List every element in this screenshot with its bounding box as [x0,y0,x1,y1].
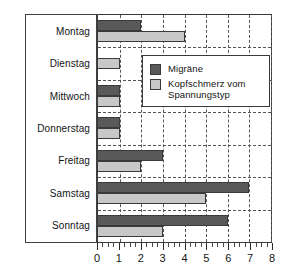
bar-migr-ne-samstag [98,182,249,193]
category-label-samstag: Samstag [26,177,96,209]
x-tick-label-6: 6 [225,252,231,264]
x-minor-tick [130,243,131,247]
legend-label-spannungstyp: Kopfschmerz vomSpannungstyp [168,78,246,100]
x-tick-2 [141,243,142,250]
bar-kopfschmerz-vom-spannungstyp-montag [98,31,185,42]
bar-kopfschmerz-vom-spannungstyp-freitag [98,161,141,172]
x-minor-tick [179,243,180,247]
x-minor-tick [102,243,103,247]
x-tick-4 [185,243,186,250]
legend-swatch-migraene [150,64,161,75]
x-tick-label-7: 7 [247,252,253,264]
category-label-freitag: Freitag [26,145,96,177]
x-minor-tick [174,243,175,247]
bar-migr-ne-freitag [98,150,163,161]
x-minor-tick [157,243,158,247]
legend-label-migraene: Migräne [168,63,203,74]
x-axis: 012345678 [97,243,272,273]
x-minor-tick [239,243,240,247]
x-minor-tick [261,243,262,247]
bar-kopfschmerz-vom-spannungstyp-sonntag [98,226,163,237]
legend-label-spannungstyp-line1: Kopfschmerz vom [168,78,246,89]
x-tick-7 [250,243,251,250]
x-tick-3 [163,243,164,250]
bar-kopfschmerz-vom-spannungstyp-dienstag [98,58,120,69]
x-minor-tick [146,243,147,247]
x-minor-tick [234,243,235,247]
bar-rows [98,15,271,242]
plot-area [97,14,272,243]
bar-group-montag [98,15,271,47]
bar-migr-ne-sonntag [98,215,228,226]
x-tick-label-3: 3 [160,252,166,264]
x-tick-label-8: 8 [269,252,275,264]
bar-migr-ne-montag [98,20,141,31]
bar-migr-ne-mittwoch [98,85,120,96]
category-label-panel: Montag Dienstag Mittwoch Donnerstag Frei… [25,14,97,243]
chart-legend: Migräne Kopfschmerz vomSpannungstyp [142,55,270,107]
legend-item-spannungstyp: Kopfschmerz vomSpannungstyp [150,78,263,100]
x-minor-tick [223,243,224,247]
legend-swatch-spannungstyp [150,79,161,90]
legend-label-spannungstyp-line2: Spannungstyp [168,89,230,100]
x-minor-tick [245,243,246,247]
x-minor-tick [195,243,196,247]
bar-group-freitag [98,145,271,177]
x-tick-label-4: 4 [181,252,187,264]
x-minor-tick [256,243,257,247]
x-minor-tick [190,243,191,247]
x-tick-0 [97,243,98,250]
x-minor-tick [124,243,125,247]
x-tick-1 [119,243,120,250]
bar-kopfschmerz-vom-spannungstyp-mittwoch [98,96,120,107]
x-tick-5 [206,243,207,250]
bar-kopfschmerz-vom-spannungstyp-donnerstag [98,128,120,139]
category-label-montag: Montag [26,15,96,47]
x-minor-tick [217,243,218,247]
x-minor-tick [135,243,136,247]
category-label-donnerstag: Donnerstag [26,112,96,144]
legend-item-migraene: Migräne [150,63,263,75]
gridline-x-8 [271,15,272,242]
x-minor-tick [108,243,109,247]
x-minor-tick [168,243,169,247]
category-label-list: Montag Dienstag Mittwoch Donnerstag Frei… [26,15,96,242]
x-minor-tick [113,243,114,247]
x-minor-tick [152,243,153,247]
grouped-bar-chart: Montag Dienstag Mittwoch Donnerstag Frei… [0,0,282,273]
x-tick-label-5: 5 [203,252,209,264]
x-tick-label-2: 2 [138,252,144,264]
bar-group-samstag [98,177,271,209]
x-tick-8 [272,243,273,250]
x-minor-tick [212,243,213,247]
category-label-mittwoch: Mittwoch [26,80,96,112]
x-tick-label-1: 1 [116,252,122,264]
bar-group-sonntag [98,210,271,242]
bar-kopfschmerz-vom-spannungstyp-samstag [98,193,206,204]
x-minor-tick [267,243,268,247]
category-label-dienstag: Dienstag [26,47,96,79]
x-minor-tick [201,243,202,247]
x-tick-label-0: 0 [94,252,100,264]
x-tick-6 [228,243,229,250]
bar-group-donnerstag [98,112,271,144]
category-label-sonntag: Sonntag [26,210,96,242]
bar-migr-ne-donnerstag [98,117,120,128]
